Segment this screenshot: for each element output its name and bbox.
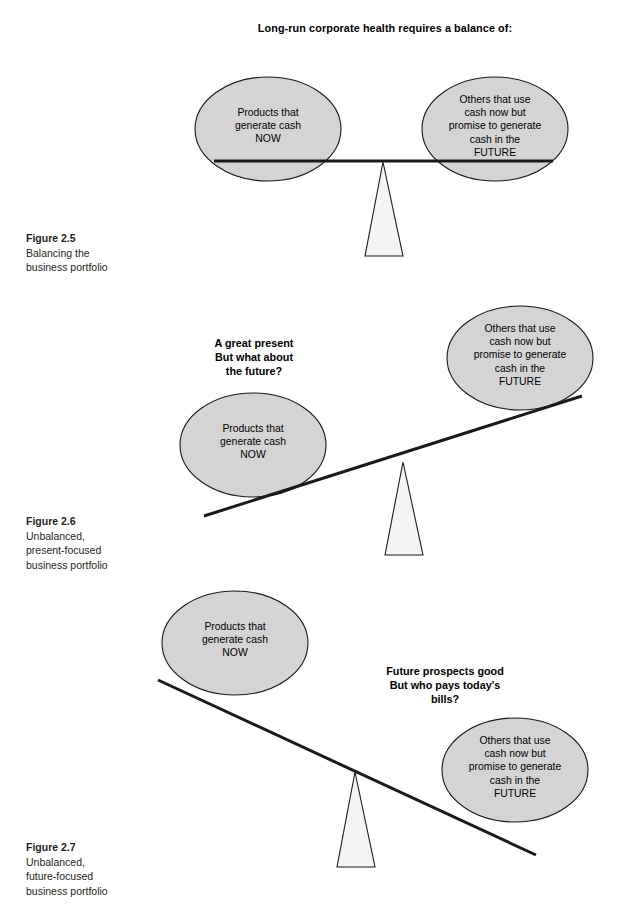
- figure-2-5: Long-run corporate health requires a bal…: [150, 22, 620, 272]
- figure-2-5-caption: Figure 2.5 Balancing the business portfo…: [26, 231, 144, 275]
- caption-title: Figure 2.7: [26, 840, 144, 855]
- caption-line: business portfolio: [26, 884, 144, 899]
- callout-future-focused: Future prospects good But who pays today…: [355, 664, 535, 706]
- caption-title: Figure 2.6: [26, 514, 144, 529]
- ellipse-others-future: [442, 718, 588, 822]
- caption-title: Figure 2.5: [26, 231, 144, 246]
- figure-2-5-diagram: [150, 22, 620, 272]
- caption-line: Unbalanced,: [26, 529, 144, 544]
- caption-line: Unbalanced,: [26, 855, 144, 870]
- callout-present-focused: A great present But what about the futur…: [180, 336, 328, 378]
- figure-2-6: A great present But what about the futur…: [150, 290, 620, 580]
- figure-2-6-caption: Figure 2.6 Unbalanced, present-focused b…: [26, 514, 144, 572]
- caption-line: business portfolio: [26, 558, 144, 573]
- fulcrum-triangle: [365, 162, 403, 256]
- caption-line: future-focused: [26, 869, 144, 884]
- fulcrum-triangle: [385, 462, 423, 555]
- figure-2-7: Products that generate cash NOW Future p…: [150, 585, 620, 885]
- ellipse-products-now: [180, 393, 326, 497]
- ellipse-products-now: [195, 77, 341, 181]
- ellipse-others-future: [422, 77, 568, 181]
- ellipse-others-future: [447, 306, 593, 410]
- ellipse-products-now: [162, 591, 308, 695]
- page-canvas: Long-run corporate health requires a bal…: [0, 0, 628, 907]
- fulcrum-triangle: [337, 772, 375, 867]
- figure-2-7-caption: Figure 2.7 Unbalanced, future-focused bu…: [26, 840, 144, 898]
- caption-line: business portfolio: [26, 260, 144, 275]
- figure-2-6-diagram: [150, 290, 620, 580]
- caption-line: Balancing the: [26, 246, 144, 261]
- caption-line: present-focused: [26, 543, 144, 558]
- figure-2-7-diagram: [150, 585, 620, 885]
